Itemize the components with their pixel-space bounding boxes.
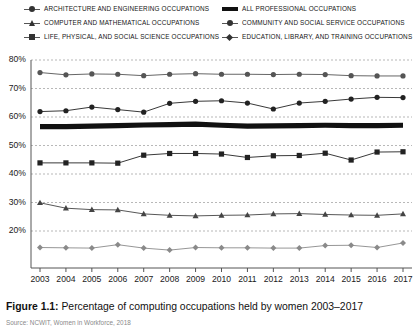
data-point-circle	[167, 101, 172, 106]
data-point-circle	[89, 104, 94, 109]
legend-marker-square-icon	[24, 32, 40, 42]
legend-label: EDUCATION, LIBRARY, AND TRAINING OCCUPAT…	[242, 30, 412, 44]
y-axis-tick-label: 20%	[0, 226, 26, 235]
series-2	[37, 149, 405, 166]
legend-item-life-science[interactable]: LIFE, PHYSICAL, AND SOCIAL SCIENCE OCCUP…	[24, 30, 224, 44]
data-point-circle	[400, 73, 405, 78]
legend-item-computer[interactable]: COMPUTER AND MATHEMATICAL OCCUPATIONS	[24, 16, 224, 30]
series-5	[37, 70, 405, 79]
data-point-circle	[37, 70, 42, 75]
data-point-square	[219, 151, 224, 156]
data-point-diamond	[296, 245, 302, 251]
data-point-triangle	[37, 200, 43, 205]
data-point-circle	[271, 72, 276, 77]
data-point-square	[115, 161, 120, 166]
legend-marker-triangle-icon	[24, 18, 40, 28]
series-0	[37, 240, 406, 253]
data-point-square	[400, 149, 405, 154]
data-series-layer	[37, 70, 406, 253]
data-point-triangle	[400, 211, 406, 216]
data-point-diamond	[141, 245, 147, 251]
data-point-circle	[141, 110, 146, 115]
data-point-circle	[193, 99, 198, 104]
y-axis-tick-label: 30%	[0, 198, 26, 207]
y-axis-tick-label: 60%	[0, 112, 26, 121]
data-point-square	[374, 149, 379, 154]
plot-area: 80%70%60%50%40%30%20% 200320042005200620…	[0, 44, 417, 296]
legend-item-all-professional[interactable]: ALL PROFESSIONAL OCCUPATIONS	[222, 2, 417, 16]
legend-marker-circle-icon	[24, 4, 40, 14]
y-axis-tick-label: 50%	[0, 141, 26, 150]
x-axis-tick-label: 2017	[388, 274, 417, 284]
legend-label: ARCHITECTURE AND ENGINEERING OCCUPATIONS	[44, 2, 209, 16]
data-point-circle	[115, 107, 120, 112]
data-point-square	[349, 157, 354, 162]
data-point-square	[323, 151, 328, 156]
data-point-diamond	[348, 242, 354, 248]
data-point-circle	[63, 72, 68, 77]
legend-column-right: ALL PROFESSIONAL OCCUPATIONS COMMUNITY A…	[222, 2, 417, 44]
data-point-circle	[167, 72, 172, 77]
data-point-square	[193, 151, 198, 156]
data-point-diamond	[270, 245, 276, 251]
legend-marker-circle-icon	[222, 18, 238, 28]
series-4	[37, 95, 405, 115]
legend-item-community[interactable]: COMMUNITY AND SOCIAL SERVICE OCCUPATIONS	[222, 16, 417, 30]
data-point-circle	[193, 71, 198, 76]
caption-label: Figure 1.1:	[6, 301, 59, 312]
data-point-diamond	[322, 243, 328, 249]
data-point-diamond	[89, 245, 95, 251]
data-point-circle	[63, 108, 68, 113]
figure-source: Source: NCWIT, Women in Workforce, 2018	[6, 319, 416, 328]
y-axis-tick-label: 40%	[0, 169, 26, 178]
data-point-circle	[374, 95, 379, 100]
data-point-circle	[245, 100, 250, 105]
data-point-circle	[400, 95, 405, 100]
legend-label: LIFE, PHYSICAL, AND SOCIAL SCIENCE OCCUP…	[44, 30, 219, 44]
data-point-square	[63, 160, 68, 165]
data-point-diamond	[244, 245, 250, 251]
data-point-square	[167, 151, 172, 156]
data-point-circle	[297, 100, 302, 105]
data-point-square	[37, 160, 42, 165]
data-point-circle	[219, 98, 224, 103]
data-point-diamond	[219, 245, 225, 251]
legend-marker-diamond-icon	[222, 32, 238, 42]
legend-marker-thick-line-icon	[222, 4, 238, 14]
gridlines	[31, 60, 412, 231]
data-point-circle	[374, 73, 379, 78]
data-point-square	[271, 153, 276, 158]
legend-item-architecture[interactable]: ARCHITECTURE AND ENGINEERING OCCUPATIONS	[24, 2, 224, 16]
data-point-square	[89, 160, 94, 165]
data-point-circle	[271, 106, 276, 111]
data-point-circle	[349, 96, 354, 101]
x-axis-ticks	[40, 268, 403, 272]
data-point-diamond	[193, 245, 199, 251]
data-point-diamond	[400, 240, 406, 246]
figure-caption: Figure 1.1: Percentage of computing occu…	[6, 300, 416, 313]
data-point-circle	[141, 73, 146, 78]
data-point-circle	[323, 72, 328, 77]
series-3	[40, 124, 403, 127]
data-point-circle	[245, 72, 250, 77]
caption-text: Percentage of computing occupations held…	[61, 301, 363, 312]
axis-lines	[31, 60, 412, 268]
data-point-circle	[323, 99, 328, 104]
data-point-circle	[37, 109, 42, 114]
legend-column-left: ARCHITECTURE AND ENGINEERING OCCUPATIONS…	[24, 2, 224, 44]
legend-label: COMPUTER AND MATHEMATICAL OCCUPATIONS	[44, 16, 199, 30]
legend-item-education[interactable]: EDUCATION, LIBRARY, AND TRAINING OCCUPAT…	[222, 30, 417, 44]
data-point-diamond	[115, 242, 121, 248]
data-point-square	[141, 153, 146, 158]
series-line	[40, 124, 403, 127]
y-axis-tick-label: 80%	[0, 55, 26, 64]
data-point-diamond	[37, 245, 43, 251]
data-point-diamond	[374, 245, 380, 251]
legend-label: ALL PROFESSIONAL OCCUPATIONS	[242, 2, 356, 16]
chart-legend: ARCHITECTURE AND ENGINEERING OCCUPATIONS…	[0, 2, 417, 44]
data-point-square	[297, 153, 302, 158]
legend-label: COMMUNITY AND SOCIAL SERVICE OCCUPATIONS	[242, 16, 405, 30]
data-point-circle	[115, 72, 120, 77]
data-point-square	[245, 155, 250, 160]
data-point-circle	[219, 72, 224, 77]
